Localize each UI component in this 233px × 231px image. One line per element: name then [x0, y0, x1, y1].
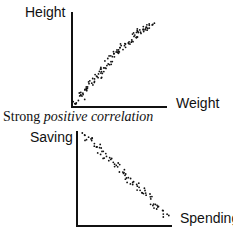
scatter-plots [0, 0, 233, 231]
top-chart-axes [71, 12, 167, 107]
bottom-chart-axes [76, 131, 172, 226]
top-chart-points [72, 22, 155, 105]
bottom-chart-points [81, 132, 169, 218]
